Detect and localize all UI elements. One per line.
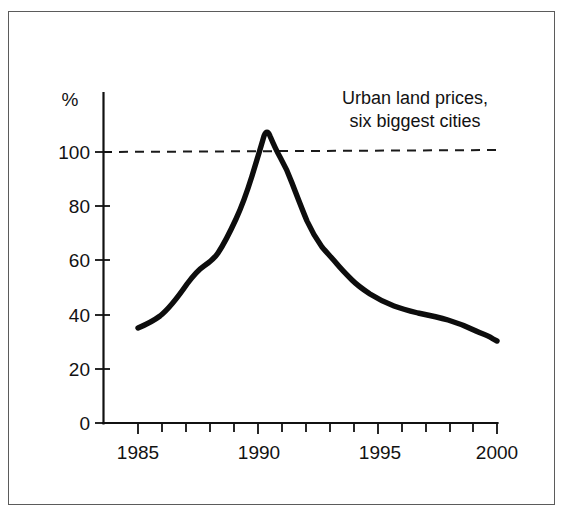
y-tick-label-100: 100 [58,142,90,163]
x-axis-ticks [138,423,497,434]
chart-title-line-2: six biggest cities [349,111,480,131]
y-tick-label-60: 60 [69,250,90,271]
y-tick-label-0: 0 [79,413,90,434]
figure-root: % 100 80 60 40 20 0 1985 1990 1995 2000 … [0,0,569,524]
line-chart: % 100 80 60 40 20 0 1985 1990 1995 2000 … [0,0,569,524]
chart-title-line-1: Urban land prices, [342,88,488,108]
reference-line-100 [103,150,502,152]
y-axis-tick-labels: 100 80 60 40 20 0 [58,142,90,434]
x-tick-label-1995: 1995 [359,442,401,463]
y-tick-label-20: 20 [69,359,90,380]
y-axis-unit-label: % [62,89,79,110]
y-tick-label-40: 40 [69,305,90,326]
x-tick-label-2000: 2000 [476,442,518,463]
x-tick-label-1990: 1990 [238,442,280,463]
urban-land-price-curve [138,132,497,341]
y-tick-label-80: 80 [69,196,90,217]
chart-title-annotation: Urban land prices, six biggest cities [342,88,488,131]
x-tick-label-1985: 1985 [117,442,159,463]
x-axis-tick-labels: 1985 1990 1995 2000 [117,442,518,463]
